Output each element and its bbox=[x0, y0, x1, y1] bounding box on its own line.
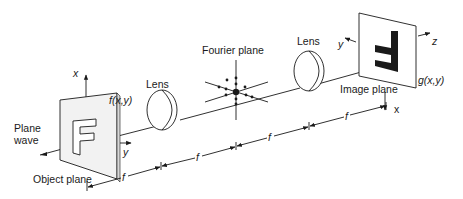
lens-2 bbox=[294, 51, 324, 91]
plane-wave-label-line2: wave bbox=[13, 134, 39, 146]
object-plane bbox=[60, 75, 131, 182]
image-plane bbox=[345, 13, 430, 110]
input-function-label: f(x,y) bbox=[109, 94, 132, 106]
image-plane-label: Image plane bbox=[340, 83, 398, 95]
image-z-axis-arrow bbox=[418, 33, 430, 36]
output-function-label: g(x,y) bbox=[418, 74, 444, 86]
lens-1 bbox=[147, 90, 177, 130]
image-y-axis-label: y bbox=[337, 38, 344, 50]
plane-wave-label-line1: Plane bbox=[14, 122, 41, 134]
distance-label-1: f bbox=[122, 171, 126, 183]
distance-label-2: f bbox=[196, 151, 200, 163]
lens-2-label: Lens bbox=[297, 35, 320, 47]
image-x-axis-label: x bbox=[394, 103, 400, 115]
object-x-axis-label: x bbox=[72, 67, 79, 79]
image-z-axis-label: z bbox=[431, 35, 438, 47]
image-y-axis-arrow bbox=[345, 38, 356, 42]
distance-label-4: f bbox=[345, 110, 349, 122]
object-y-axis-label: y bbox=[122, 146, 129, 158]
fourier-optics-diagram: x y f(x,y) Plane wave Object plane Lens … bbox=[0, 0, 463, 199]
object-plane-label: Object plane bbox=[33, 173, 92, 185]
lens-1-label: Lens bbox=[146, 78, 169, 90]
fourier-plane-label: Fourier plane bbox=[202, 44, 264, 56]
distance-label-3: f bbox=[268, 131, 272, 143]
focal-distance-dimension bbox=[87, 102, 386, 191]
